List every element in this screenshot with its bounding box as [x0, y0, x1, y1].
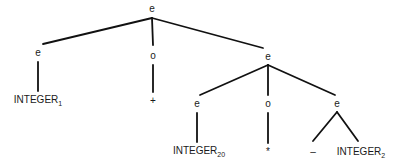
node-label: o [265, 98, 271, 109]
node-label: – [310, 146, 316, 157]
node-label: e [194, 98, 200, 109]
node-e1: e [35, 48, 41, 58]
node-label: INTEGER [14, 94, 58, 105]
node-int1: INTEGER1 [14, 95, 62, 105]
node-e2: e [265, 52, 271, 62]
node-subscript: 20 [217, 151, 225, 158]
node-o1: o [150, 51, 156, 61]
tree-edges [0, 0, 398, 168]
edge-root-o1 [152, 18, 153, 45]
edge-root-e2 [152, 18, 263, 48]
edge-e4-int2 [337, 112, 358, 141]
node-label: * [266, 146, 270, 157]
node-label: INTEGER [337, 146, 381, 157]
node-subscript: 2 [381, 152, 385, 159]
node-label: e [35, 47, 41, 58]
node-label: INTEGER [173, 145, 217, 156]
node-o2: o [265, 99, 271, 109]
node-e4: e [334, 99, 340, 109]
node-int20: INTEGER20 [173, 146, 225, 156]
node-plus: + [150, 96, 156, 106]
edge-root-e1 [43, 18, 152, 44]
node-minus: – [310, 147, 316, 157]
node-label: e [334, 98, 340, 109]
node-label: e [149, 3, 155, 14]
edge-e4-minus [313, 112, 337, 141]
node-root: e [149, 4, 155, 14]
node-label: o [150, 50, 156, 61]
node-star: * [266, 147, 270, 157]
node-e3: e [194, 99, 200, 109]
node-label: e [265, 51, 271, 62]
node-subscript: 1 [58, 100, 62, 107]
node-int2: INTEGER2 [337, 147, 385, 157]
edge-e2-e4 [268, 65, 335, 95]
node-label: + [150, 95, 156, 106]
edge-e2-e3 [200, 65, 268, 95]
